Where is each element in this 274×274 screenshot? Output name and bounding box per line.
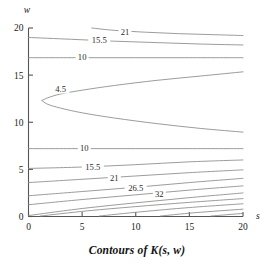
y-tick-label: 0 [19, 212, 24, 222]
x-tick-label: 10 [131, 222, 141, 232]
contour-label: 32 [155, 189, 164, 199]
x-tick-label: 20 [238, 222, 248, 232]
contour-line [92, 28, 243, 36]
contour-line [160, 209, 243, 216]
contour-label: 4.5 [55, 84, 66, 94]
y-tick-label: 5 [19, 165, 24, 175]
contour-line [99, 204, 243, 216]
contour-line [29, 160, 244, 168]
contour-label: 15.5 [85, 162, 100, 172]
contour-line [40, 199, 243, 216]
y-axis-label: w [24, 5, 31, 15]
y-tick-label: 10 [14, 118, 24, 128]
y-tick-label: 20 [14, 23, 24, 33]
figure-caption: Contours of K(s, w) [0, 244, 274, 256]
contour-line [42, 101, 243, 133]
contour-line [42, 72, 243, 101]
contour-line [29, 37, 244, 45]
contour-labels: 2115.5104.51015.52126.532 [52, 27, 166, 199]
contour-line [211, 213, 243, 216]
contour-label: 10 [78, 52, 87, 62]
contour-plot: 2115.5104.51015.52126.532 05101520051015… [0, 0, 274, 274]
contour-label: 10 [80, 143, 89, 153]
contour-label: 15.5 [92, 35, 107, 45]
figure-container: 2115.5104.51015.52126.532 05101520051015… [0, 0, 274, 274]
x-axis-label: s [256, 211, 260, 221]
x-tick-label: 0 [26, 222, 31, 232]
contour-label: 26.5 [128, 183, 143, 193]
x-tick-label: 15 [185, 222, 195, 232]
x-tick-label: 5 [80, 222, 85, 232]
y-tick-label: 15 [14, 71, 24, 81]
contour-label: 21 [110, 173, 119, 183]
contour-label: 21 [121, 27, 130, 37]
